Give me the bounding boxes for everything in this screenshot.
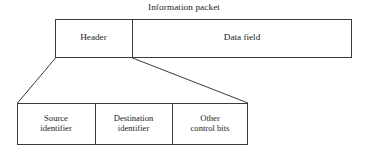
header-field-destination-identifier-label: Destination identifier bbox=[95, 113, 172, 133]
header-field-source-identifier-label: Source identifier bbox=[17, 113, 95, 133]
packet-field-header-label: Header bbox=[55, 32, 132, 43]
packet-structure-diagram: Information packet Header Data field Sou… bbox=[0, 0, 368, 151]
header-field-other-control-bits-label: Other control bits bbox=[172, 113, 248, 133]
packet-field-data-field-label: Data field bbox=[132, 32, 352, 43]
figure-caption: Information packet bbox=[0, 2, 368, 13]
leader-line-left bbox=[18, 58, 56, 103]
leader-line-right bbox=[133, 58, 249, 103]
